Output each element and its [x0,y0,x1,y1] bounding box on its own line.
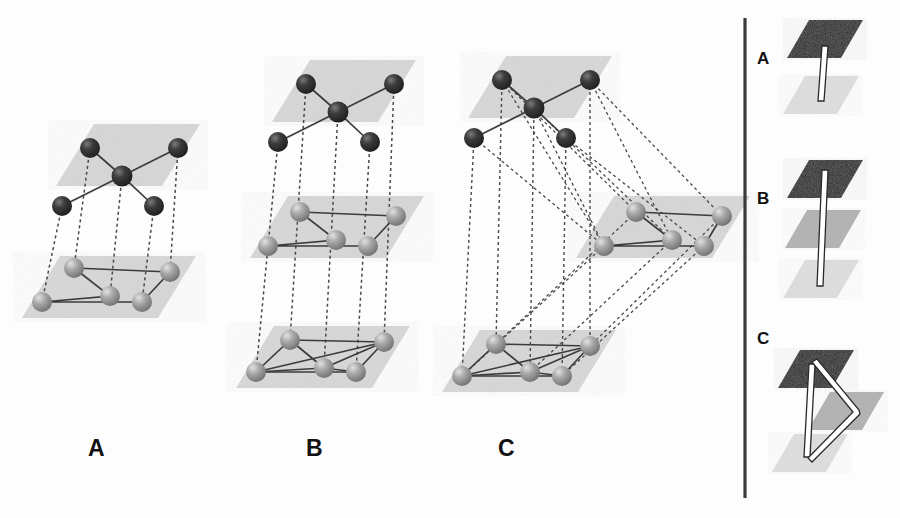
panel-label-a: A [88,437,105,460]
inset-label-b: B [757,190,769,207]
inset-c [772,350,884,472]
panel-label-b: B [306,437,323,460]
panel-label-c: C [498,437,515,460]
inset-label-a: A [757,50,769,67]
inset-b [783,160,863,298]
panel-a [22,124,200,318]
figure-root: A B C A B C [0,0,900,518]
inset-label-c: C [757,330,769,347]
inset-a [783,20,863,114]
panel-b [236,60,424,388]
stacking-diagram-svg [0,0,900,518]
inset-c-plane-dark [778,350,854,388]
panel-c [442,56,750,392]
